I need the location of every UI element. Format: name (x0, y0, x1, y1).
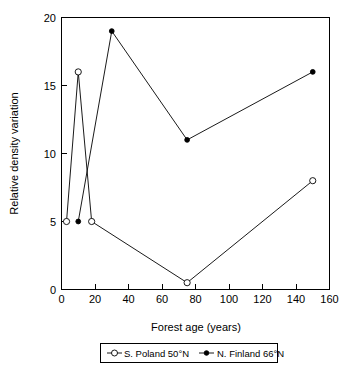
x-tick-label-0: 0 (58, 293, 64, 305)
series-2 (76, 29, 315, 224)
open-circle-icon (112, 350, 118, 356)
data-point (63, 218, 69, 224)
data-point (76, 219, 81, 224)
data-point (185, 138, 190, 143)
x-tick-label-80: 80 (189, 293, 201, 305)
data-point (109, 29, 114, 34)
x-tick-label-20: 20 (89, 293, 101, 305)
series-1 (63, 69, 315, 286)
data-point (89, 218, 95, 224)
y-axis-title: Relative density variation (8, 92, 20, 214)
data-point (184, 280, 190, 286)
chart-svg: 0 5 10 15 20 0 20 40 60 80 100 120 140 (0, 0, 355, 379)
chart-figure: 0 5 10 15 20 0 20 40 60 80 100 120 140 (0, 0, 355, 379)
filled-circle-icon (204, 351, 209, 356)
x-axis-title: Forest age (years) (151, 321, 241, 333)
y-tick-label-0: 0 (50, 284, 56, 296)
data-series-layer (63, 29, 315, 286)
series-line-2 (78, 31, 313, 221)
x-tick-label-160: 160 (320, 293, 338, 305)
legend-label-s-poland: S. Poland 50°N (124, 348, 189, 359)
x-axis-ticks (62, 284, 330, 290)
y-tick-label-20: 20 (44, 12, 56, 24)
y-tick-label-15: 15 (44, 80, 56, 92)
y-tick-label-5: 5 (50, 216, 56, 228)
chart-legend: S. Poland 50°N N. Finland 66°N (101, 344, 285, 363)
legend-label-n-finland: N. Finland 66°N (217, 348, 284, 359)
x-tick-label-40: 40 (122, 293, 134, 305)
data-point (75, 69, 81, 75)
y-axis-tick-labels: 0 5 10 15 20 (44, 12, 56, 296)
x-tick-label-120: 120 (253, 293, 271, 305)
x-axis-tick-labels: 0 20 40 60 80 100 120 140 160 (58, 293, 338, 305)
plot-frame (62, 17, 331, 290)
x-tick-label-140: 140 (287, 293, 305, 305)
series-line-1 (67, 72, 313, 283)
data-point (310, 178, 316, 184)
y-axis-ticks (62, 18, 68, 290)
y-tick-label-10: 10 (44, 148, 56, 160)
x-tick-label-60: 60 (156, 293, 168, 305)
data-point (310, 70, 315, 75)
x-tick-label-100: 100 (220, 293, 238, 305)
